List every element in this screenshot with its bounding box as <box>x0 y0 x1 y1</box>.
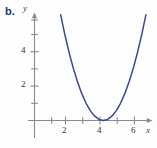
y-axis-label: y <box>23 4 27 13</box>
x-axis <box>28 118 153 123</box>
y-tick-label-2: 2 <box>21 80 26 89</box>
y-tick-label-4: 4 <box>21 46 26 55</box>
parabola-curve <box>61 15 146 121</box>
x-tick-label-4: 4 <box>97 126 102 135</box>
y-axis <box>32 13 37 139</box>
x-tick-label-6: 6 <box>131 126 136 135</box>
x-axis-label: x <box>146 126 150 135</box>
figure-panel: b. y x 4 2 2 4 6 <box>0 0 157 148</box>
x-tick-label-2: 2 <box>62 126 67 135</box>
part-label: b. <box>5 6 15 17</box>
